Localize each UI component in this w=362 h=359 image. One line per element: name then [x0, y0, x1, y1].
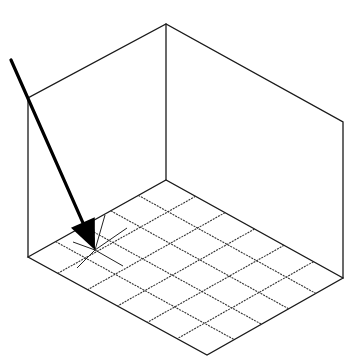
grid-line [118, 229, 255, 306]
floor-grid [56, 195, 316, 339]
grid-line [56, 242, 235, 340]
room-corner-diagram [0, 0, 362, 359]
target-ray [95, 228, 127, 250]
walls [28, 24, 343, 278]
arrow-shaft [11, 60, 83, 223]
wall-outline [28, 24, 343, 278]
grid-line [88, 213, 225, 290]
target-ray [77, 250, 95, 268]
grid-line [111, 211, 289, 309]
grid-line [147, 245, 284, 322]
grid-line [58, 196, 196, 273]
pointer-arrow [11, 60, 95, 250]
grid-line [177, 262, 313, 339]
target-ray [95, 250, 123, 266]
